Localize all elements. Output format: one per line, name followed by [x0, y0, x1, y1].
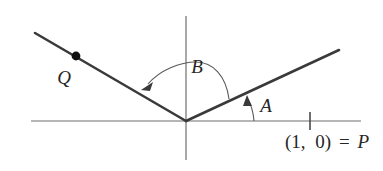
angle-a-arrowhead: [243, 95, 252, 106]
angle-a-label: A: [258, 95, 272, 116]
point-q-label: Q: [57, 67, 71, 88]
point-q-dot: [72, 52, 81, 61]
point-p-coords-open: (1,: [285, 131, 306, 153]
point-p-name: P: [356, 131, 369, 152]
point-p-coords-zero: 0): [315, 131, 331, 153]
angle-b-label: B: [191, 56, 203, 77]
geometry-diagram-canvas: Q B A (1, 0) = P: [0, 0, 383, 171]
angle-b-left-arrowhead: [141, 82, 153, 91]
point-p-label: (1, 0) = P: [285, 131, 369, 153]
point-p-equals: =: [339, 131, 350, 152]
geometry-figure: Q B A (1, 0) = P: [0, 0, 383, 171]
angle-b-arc: [148, 62, 229, 99]
